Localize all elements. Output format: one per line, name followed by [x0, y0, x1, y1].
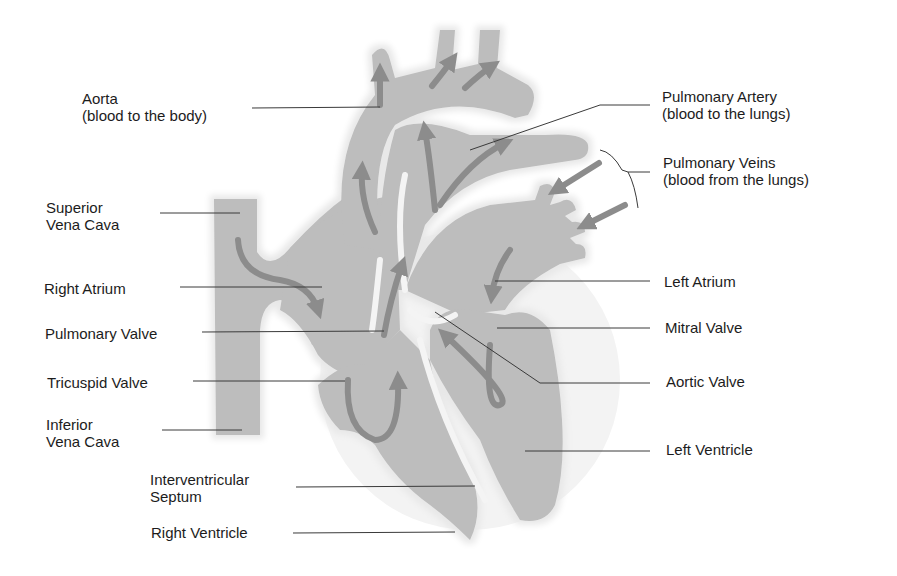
label-line: Left Atrium: [664, 273, 736, 290]
label-left-ventricle: Left Ventricle: [666, 441, 753, 458]
label-right-atrium: Right Atrium: [44, 280, 126, 297]
label-line: Tricuspid Valve: [47, 374, 148, 391]
label-left-atrium: Left Atrium: [664, 273, 736, 290]
flow-arrow: [556, 163, 599, 190]
label-line: Right Ventricle: [151, 524, 248, 541]
label-line: Pulmonary Veins: [663, 154, 809, 171]
label-line: (blood to the lungs): [662, 105, 790, 122]
label-mitral-valve: Mitral Valve: [665, 319, 742, 336]
label-aorta: Aorta (blood to the body): [82, 90, 207, 124]
label-line: Pulmonary Valve: [45, 325, 157, 342]
label-pulmonary-artery: Pulmonary Artery (blood to the lungs): [662, 88, 790, 122]
label-line: (blood to the body): [82, 107, 207, 124]
leader-right-ventricle: [293, 532, 455, 533]
label-pulmonary-veins: Pulmonary Veins (blood from the lungs): [663, 154, 809, 188]
label-interventricular-septum: Interventricular Septum: [150, 471, 249, 505]
label-line: Pulmonary Artery: [662, 88, 790, 105]
flow-arrow: [585, 205, 625, 225]
label-line: (blood from the lungs): [663, 171, 809, 188]
label-line: Aorta: [82, 90, 207, 107]
label-line: Superior: [46, 199, 119, 216]
label-pulmonary-valve: Pulmonary Valve: [45, 325, 157, 342]
label-superior-vena-cava: Superior Vena Cava: [46, 199, 119, 233]
label-inferior-vena-cava: Inferior Vena Cava: [46, 416, 119, 450]
label-line: Septum: [150, 488, 249, 505]
label-aortic-valve: Aortic Valve: [666, 373, 745, 390]
heart-diagram: [0, 0, 897, 576]
label-tricuspid-valve: Tricuspid Valve: [47, 374, 148, 391]
label-line: Left Ventricle: [666, 441, 753, 458]
leader-aorta: [252, 107, 380, 108]
label-line: Aortic Valve: [666, 373, 745, 390]
label-line: Interventricular: [150, 471, 249, 488]
pulmonary-veins-brace: [600, 150, 650, 208]
label-line: Right Atrium: [44, 280, 126, 297]
label-line: Vena Cava: [46, 216, 119, 233]
label-right-ventricle: Right Ventricle: [151, 524, 248, 541]
label-line: Mitral Valve: [665, 319, 742, 336]
label-line: Vena Cava: [46, 433, 119, 450]
label-line: Inferior: [46, 416, 119, 433]
